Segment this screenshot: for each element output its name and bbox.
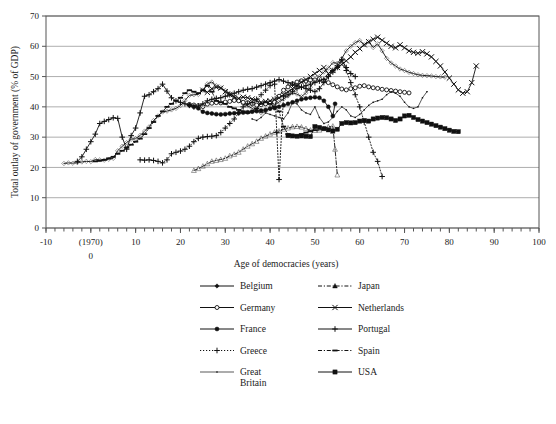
y-tick-label-30: 30: [30, 132, 40, 142]
data-point: [371, 86, 375, 90]
data-point: [286, 134, 290, 138]
legend-label-portugal: Portugal: [358, 324, 391, 334]
data-point: [328, 121, 329, 122]
data-point: [268, 107, 272, 111]
data-point: [393, 118, 397, 122]
data-point: [326, 128, 330, 132]
data-point: [210, 112, 214, 116]
data-point: [313, 124, 317, 128]
data-point: [407, 113, 411, 117]
data-point: [380, 87, 384, 91]
data-point: [205, 111, 209, 115]
data-point: [322, 127, 326, 131]
data-point: [304, 96, 308, 100]
data-point: [353, 121, 357, 125]
data-point: [331, 129, 335, 133]
data-point: [304, 134, 308, 138]
y-tick-label-10: 10: [30, 193, 40, 203]
legend-label-usa: USA: [358, 367, 377, 377]
data-point: [416, 117, 420, 121]
data-point: [278, 117, 279, 118]
data-point: [385, 116, 389, 120]
data-point: [314, 106, 315, 107]
data-point: [201, 110, 205, 114]
legend-label-greece: Greece: [240, 346, 267, 356]
legend-label-great-britain: Great: [240, 367, 261, 377]
legend-label-spain: Spain: [358, 346, 380, 356]
data-point: [323, 123, 324, 124]
data-point: [456, 130, 460, 134]
data-point: [301, 109, 302, 110]
data-point: [364, 109, 365, 110]
data-point: [335, 85, 339, 89]
chart-figure: -10(1970)1020304050607080901000 01020304…: [0, 0, 556, 424]
data-point: [317, 96, 321, 100]
data-point: [402, 114, 406, 118]
data-point: [376, 86, 380, 90]
x-tick-label-60: 60: [355, 237, 365, 247]
data-point: [290, 134, 294, 138]
data-point: [277, 105, 281, 109]
data-point: [389, 117, 393, 121]
x-tick-label-10: 10: [131, 237, 141, 247]
x-tick-sublabel-origin-year: 0: [89, 251, 94, 261]
data-point: [380, 115, 384, 119]
x-tick-label-80: 80: [445, 237, 455, 247]
data-point: [317, 125, 321, 129]
data-point: [256, 120, 257, 121]
data-point: [286, 85, 290, 89]
x-tick-label-100: 100: [532, 237, 546, 247]
data-point: [344, 121, 348, 125]
data-point: [259, 108, 263, 112]
data-point: [340, 121, 344, 125]
data-point: [326, 81, 330, 85]
data-point: [331, 83, 335, 87]
data-point: [287, 112, 288, 113]
data-point: [386, 94, 387, 95]
y-tick-label-70: 70: [30, 11, 40, 21]
y-tick-label-50: 50: [30, 72, 40, 82]
data-point: [398, 117, 402, 121]
data-point: [438, 125, 442, 129]
data-point: [337, 111, 338, 112]
data-point: [390, 91, 391, 92]
legend-label-great-britain-line2: Britain: [240, 378, 267, 388]
data-point: [313, 95, 317, 99]
x-tick-label-50: 50: [310, 237, 320, 247]
data-point: [295, 134, 299, 138]
x-tick-label-40: 40: [266, 237, 276, 247]
total-outlay-vs-age-of-democracies-chart: -10(1970)1020304050607080901000 01020304…: [0, 0, 556, 424]
data-point: [251, 118, 252, 119]
data-point: [417, 106, 418, 107]
data-point: [452, 129, 456, 133]
legend-label-netherlands: Netherlands: [358, 303, 404, 313]
data-point: [362, 84, 366, 88]
data-point: [381, 99, 382, 100]
legend-label-japan: Japan: [358, 281, 380, 291]
data-point: [372, 102, 373, 103]
data-point: [368, 105, 369, 106]
data-point: [340, 87, 344, 91]
data-point: [308, 96, 312, 100]
data-point: [322, 99, 326, 103]
data-point: [349, 121, 353, 125]
legend-marker-germany: [215, 306, 219, 310]
data-point: [362, 118, 366, 122]
y-axis-title: Total outlay of government (% of GDP): [10, 46, 21, 198]
data-point: [292, 102, 293, 103]
x-tick-label-30: 30: [221, 237, 231, 247]
data-point: [305, 112, 306, 113]
data-point: [399, 96, 400, 97]
data-point: [358, 84, 362, 88]
data-point: [219, 112, 223, 116]
data-point: [434, 124, 438, 128]
x-tick-label--10: -10: [40, 237, 52, 247]
legend-marker-france: [215, 327, 219, 331]
data-point: [341, 106, 342, 107]
data-point: [232, 111, 236, 115]
data-point: [385, 88, 389, 92]
data-point: [299, 97, 303, 101]
data-point: [377, 100, 378, 101]
data-point: [429, 122, 433, 126]
data-point: [376, 116, 380, 120]
